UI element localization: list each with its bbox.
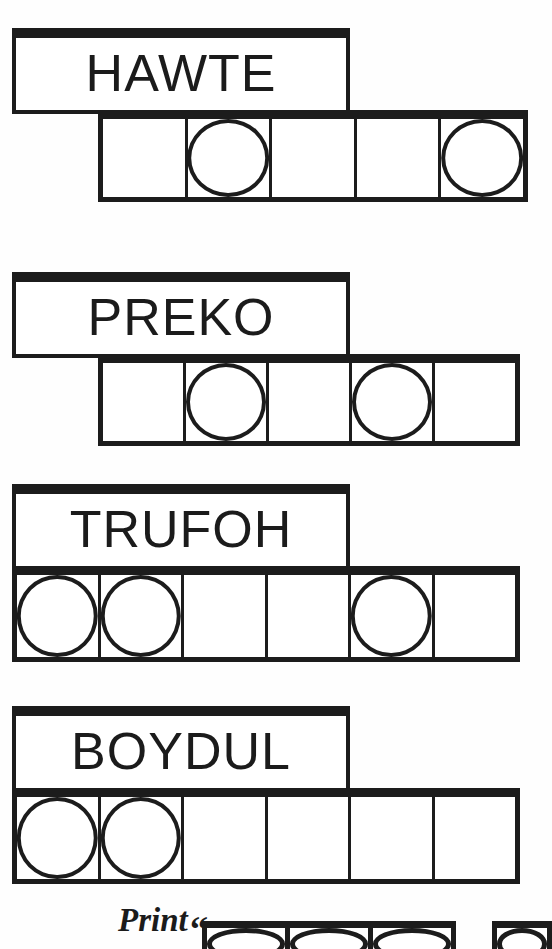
- practice-cell[interactable]: [290, 928, 373, 949]
- answer-cell[interactable]: [101, 575, 185, 657]
- answer-cell[interactable]: [268, 575, 352, 657]
- answer-cell[interactable]: [103, 119, 188, 197]
- answer-cell[interactable]: [351, 797, 435, 879]
- answer-cell[interactable]: [357, 119, 442, 197]
- circle-marker-icon: [101, 797, 182, 879]
- answer-grid-preko: [98, 354, 520, 446]
- circle-marker-icon: [17, 797, 98, 879]
- circle-marker-icon: [351, 575, 432, 657]
- word-label-box-hawte: HAWTE: [12, 28, 350, 114]
- word-label-text: TRUFOH: [70, 503, 293, 555]
- answer-cell[interactable]: [17, 797, 101, 879]
- worksheet-page: HAWTE PREKO: [0, 0, 552, 949]
- circle-marker-icon: [188, 119, 270, 197]
- circle-marker-icon: [352, 363, 432, 441]
- print-practice-grid-secondary: [492, 921, 552, 949]
- answer-cell[interactable]: [351, 575, 435, 657]
- answer-cell[interactable]: [184, 797, 268, 879]
- answer-cell[interactable]: [269, 363, 352, 441]
- answer-cell[interactable]: [17, 575, 101, 657]
- word-label-text: HAWTE: [86, 47, 277, 99]
- word-label-box-trufoh: TRUFOH: [12, 484, 350, 570]
- practice-cell[interactable]: [497, 928, 547, 949]
- answer-cell[interactable]: [101, 797, 185, 879]
- circle-marker-icon: [441, 119, 523, 197]
- circle-marker-icon: [290, 928, 368, 949]
- practice-cell[interactable]: [373, 928, 451, 949]
- answer-cell[interactable]: [268, 797, 352, 879]
- answer-cell[interactable]: [435, 797, 516, 879]
- practice-cell[interactable]: [207, 928, 290, 949]
- word-label-box-boydul: BOYDUL: [12, 706, 350, 792]
- word-label-text: PREKO: [87, 291, 274, 343]
- circle-marker-icon: [497, 928, 547, 949]
- answer-cell[interactable]: [352, 363, 435, 441]
- answer-grid-boydul: [12, 788, 520, 884]
- word-label-text: BOYDUL: [71, 725, 291, 777]
- circle-marker-icon: [17, 575, 98, 657]
- circle-marker-icon: [101, 575, 182, 657]
- answer-cell[interactable]: [184, 575, 268, 657]
- answer-cell[interactable]: [435, 575, 516, 657]
- circle-marker-icon: [186, 363, 266, 441]
- answer-cell[interactable]: [188, 119, 273, 197]
- print-instruction-label: Print: [118, 902, 188, 939]
- answer-cell[interactable]: [435, 363, 515, 441]
- answer-grid-hawte: [98, 110, 528, 202]
- answer-cell[interactable]: [186, 363, 269, 441]
- answer-cell[interactable]: [441, 119, 523, 197]
- circle-marker-icon: [373, 928, 451, 949]
- answer-cell[interactable]: [103, 363, 186, 441]
- answer-grid-trufoh: [12, 566, 520, 662]
- circle-marker-icon: [207, 928, 285, 949]
- answer-cell[interactable]: [272, 119, 357, 197]
- word-label-box-preko: PREKO: [12, 272, 350, 358]
- print-practice-grid-main: [202, 921, 456, 949]
